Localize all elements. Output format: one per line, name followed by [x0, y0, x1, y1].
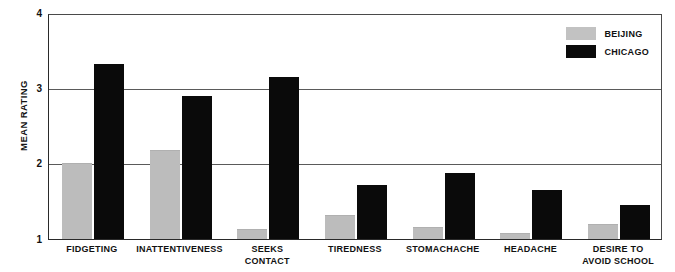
bar-chicago-fidgeting	[94, 64, 124, 239]
bar-chart: MEAN RATING 4 3 2 1 BEIJING CHICAGO FIDG…	[0, 0, 675, 272]
legend-item-beijing: BEIJING	[566, 27, 649, 40]
bar-chicago-seeks-contact	[269, 77, 299, 239]
y-tick-label-4: 4	[26, 9, 42, 19]
bar-beijing-fidgeting	[62, 163, 92, 239]
bar-beijing-tiredness	[325, 215, 355, 239]
x-axis-labels: FIDGETINGINATTENTIVENESSSEEKSCONTACTTIRE…	[48, 244, 662, 272]
legend-item-chicago: CHICAGO	[566, 45, 649, 58]
x-axis-label-seeks-contact: SEEKSCONTACT	[223, 244, 311, 267]
bar-chicago-desire-to-avoid-school	[620, 205, 650, 239]
bar-chicago-inattentiveness	[182, 96, 212, 239]
y-tick-label-1: 1	[26, 235, 42, 245]
bar-beijing-stomachache	[413, 227, 443, 239]
bar-beijing-desire-to-avoid-school	[588, 224, 618, 239]
y-tick-label-2: 2	[26, 159, 42, 169]
bar-beijing-headache	[500, 233, 530, 239]
y-tick-label-3: 3	[26, 84, 42, 94]
bar-chicago-tiredness	[357, 185, 387, 239]
bar-chicago-headache	[532, 190, 562, 239]
plot-area: BEIJING CHICAGO	[48, 14, 662, 240]
legend-swatch-chicago-icon	[566, 45, 596, 58]
x-axis-label-tiredness: TIREDNESS	[311, 244, 399, 256]
bar-chicago-stomachache	[445, 173, 475, 239]
legend-label-chicago: CHICAGO	[604, 47, 649, 57]
x-axis-label-headache: HEADACHE	[487, 244, 575, 256]
bar-beijing-seeks-contact	[237, 229, 267, 239]
bar-beijing-inattentiveness	[150, 150, 180, 239]
legend-swatch-beijing-icon	[566, 27, 596, 40]
legend: BEIJING CHICAGO	[566, 27, 649, 58]
x-axis-label-desire-to-avoid-school: DESIRE TOAVOID SCHOOL	[574, 244, 662, 267]
x-axis-label-inattentiveness: INATTENTIVENESS	[136, 244, 224, 256]
legend-label-beijing: BEIJING	[604, 29, 642, 39]
x-axis-label-stomachache: STOMACHACHE	[399, 244, 487, 256]
x-axis-label-fidgeting: FIDGETING	[48, 244, 136, 256]
